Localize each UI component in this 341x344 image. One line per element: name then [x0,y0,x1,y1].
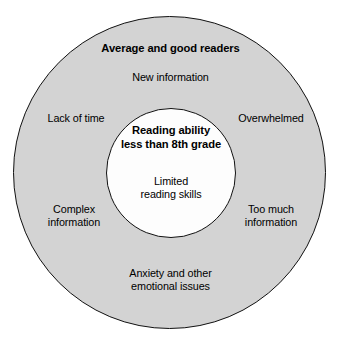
label-too-much-information: Too much information [213,203,329,229]
label-anxiety-line2: emotional issues [0,280,341,293]
label-too-much-information-line1: Too much [213,203,329,216]
outer-circle-heading: Average and good readers [0,42,341,56]
label-too-much-information-line2: information [213,216,329,229]
concentric-circles-diagram: Average and good readers New information… [0,0,341,344]
inner-circle-heading-line2: less than 8th grade [96,138,246,152]
label-limited-reading-skills: Limited reading skills [101,175,241,201]
label-anxiety-line1: Anxiety and other [0,267,341,280]
label-complex-information-line2: information [16,216,132,229]
label-complex-information: Complex information [16,203,132,229]
label-anxiety-and-other-emotional-issues: Anxiety and other emotional issues [0,267,341,293]
label-limited-reading-skills-line2: reading skills [101,188,241,201]
inner-circle-heading: Reading ability less than 8th grade [96,124,246,151]
label-limited-reading-skills-line1: Limited [101,175,241,188]
inner-circle-heading-line1: Reading ability [96,124,246,138]
label-new-information: New information [0,71,341,84]
label-complex-information-line1: Complex [16,203,132,216]
